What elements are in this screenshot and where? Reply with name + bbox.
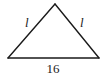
triangle-right-side bbox=[55, 4, 99, 58]
triangle-left-side bbox=[8, 4, 55, 58]
right-side-label: l bbox=[80, 15, 84, 30]
base-label: 16 bbox=[47, 61, 61, 76]
left-side-label: l bbox=[25, 15, 29, 30]
triangle-diagram: l l 16 bbox=[0, 0, 103, 77]
